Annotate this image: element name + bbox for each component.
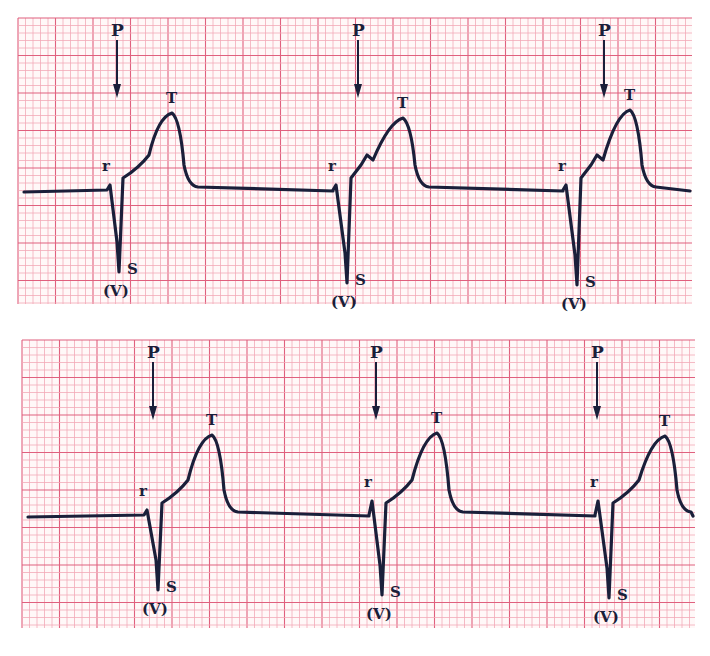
r-wave-label: r [102, 157, 111, 175]
ecg-chart-top: PTrS(V)PTrS(V)PTrS(V) [0, 0, 710, 320]
s-wave-label: S [166, 578, 177, 596]
ecg-strip-bottom: PTrS(V)PTrS(V)PTrS(V) [0, 320, 710, 656]
t-wave-label: T [397, 94, 409, 112]
p-wave-label: P [370, 342, 383, 362]
s-wave-label: S [617, 586, 628, 604]
s-wave-label: S [585, 273, 596, 291]
p-wave-label: P [598, 20, 611, 40]
t-wave-label: T [624, 86, 636, 104]
s-wave-label: S [390, 583, 401, 601]
s-wave-label: S [127, 260, 138, 278]
v-label: (V) [103, 282, 129, 300]
r-wave-label: r [328, 157, 337, 175]
p-wave-label: P [591, 342, 604, 362]
r-wave-label: r [139, 482, 148, 500]
ecg-chart-bottom: PTrS(V)PTrS(V)PTrS(V) [0, 320, 710, 656]
t-wave-label: T [206, 411, 218, 429]
v-label: (V) [142, 600, 168, 618]
t-wave-label: T [431, 409, 443, 427]
r-wave-label: r [558, 157, 567, 175]
r-wave-label: r [590, 473, 599, 491]
ecg-strip-top: PTrS(V)PTrS(V)PTrS(V) [0, 0, 710, 320]
v-label: (V) [331, 293, 357, 311]
r-wave-label: r [364, 473, 373, 491]
t-wave-label: T [659, 412, 671, 430]
s-wave-label: S [355, 271, 366, 289]
v-label: (V) [366, 605, 392, 623]
t-wave-label: T [166, 89, 178, 107]
v-label: (V) [561, 295, 587, 313]
v-label: (V) [593, 608, 619, 626]
p-wave-label: P [352, 20, 365, 40]
p-wave-label: P [147, 342, 160, 362]
p-wave-label: P [111, 20, 124, 40]
